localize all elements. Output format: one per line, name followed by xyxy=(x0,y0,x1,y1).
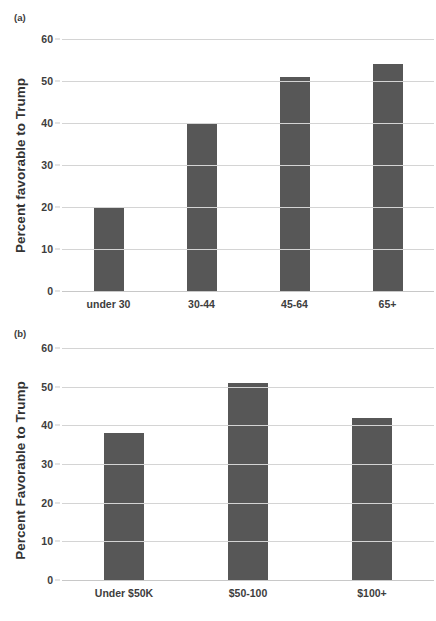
y-tick-label-0-b: 0 xyxy=(47,574,53,586)
y-tick-label-10-a: 10 xyxy=(41,243,53,255)
gridline-20-b xyxy=(62,503,434,504)
y-tick-label-0-a: 0 xyxy=(47,285,53,297)
gridline-10-b xyxy=(62,541,434,542)
gridline-0-b xyxy=(62,580,434,581)
y-tick-mark-50-a xyxy=(55,81,60,82)
y-tick-mark-60-a xyxy=(55,39,60,40)
bar-b-1 xyxy=(228,383,268,580)
chart-panel-b: (b) Percent Favorable to Trump 010203040… xyxy=(0,320,436,621)
y-tick-mark-20-b xyxy=(55,502,60,503)
gridline-40-a xyxy=(62,123,434,124)
x-category-label-b-1: $50-100 xyxy=(229,587,268,599)
y-tick-label-60-b: 60 xyxy=(41,342,53,354)
y-tick-mark-30-b xyxy=(55,464,60,465)
y-tick-mark-0-b xyxy=(55,580,60,581)
gridline-50-a xyxy=(62,81,434,82)
y-tick-label-10-b: 10 xyxy=(41,535,53,547)
bar-a-2 xyxy=(280,77,310,291)
plot-area-a: 0102030405060under 3030-4445-6465+ xyxy=(62,39,434,291)
gridline-60-b xyxy=(62,348,434,349)
y-tick-label-40-b: 40 xyxy=(41,419,53,431)
gridline-30-a xyxy=(62,165,434,166)
y-tick-mark-40-a xyxy=(55,123,60,124)
panel-label-b: (b) xyxy=(14,328,26,339)
gridline-20-a xyxy=(62,207,434,208)
y-axis-title-b: Percent Favorable to Trump xyxy=(13,341,28,601)
gridline-10-a xyxy=(62,249,434,250)
plot-area-b: 0102030405060Under $50K$50-100$100+ xyxy=(62,348,434,580)
y-tick-mark-10-b xyxy=(55,541,60,542)
bar-a-3 xyxy=(373,64,403,291)
y-tick-label-20-b: 20 xyxy=(41,497,53,509)
y-tick-label-30-b: 30 xyxy=(41,458,53,470)
y-tick-label-30-a: 30 xyxy=(41,159,53,171)
gridline-60-a xyxy=(62,39,434,40)
y-axis-title-a: Percent favorable to Trump xyxy=(13,36,28,296)
y-tick-label-40-a: 40 xyxy=(41,117,53,129)
gridline-40-b xyxy=(62,425,434,426)
gridline-30-b xyxy=(62,464,434,465)
y-tick-mark-40-b xyxy=(55,425,60,426)
y-tick-mark-20-a xyxy=(55,207,60,208)
x-category-label-a-0: under 30 xyxy=(87,298,131,310)
y-tick-mark-0-a xyxy=(55,291,60,292)
y-tick-mark-30-a xyxy=(55,165,60,166)
bar-b-0 xyxy=(104,433,144,580)
panel-label-a: (a) xyxy=(14,12,26,23)
y-tick-label-50-a: 50 xyxy=(41,75,53,87)
x-category-label-a-3: 65+ xyxy=(379,298,397,310)
x-category-label-a-2: 45-64 xyxy=(281,298,308,310)
gridline-50-b xyxy=(62,387,434,388)
chart-panel-a: (a) Percent favorable to Trump 010203040… xyxy=(0,0,436,320)
y-tick-label-20-a: 20 xyxy=(41,201,53,213)
x-category-label-b-2: $100+ xyxy=(357,587,387,599)
y-tick-mark-10-a xyxy=(55,249,60,250)
y-tick-label-60-a: 60 xyxy=(41,33,53,45)
y-tick-mark-60-b xyxy=(55,348,60,349)
x-category-label-a-1: 30-44 xyxy=(188,298,215,310)
gridline-0-a xyxy=(62,291,434,292)
x-category-label-b-0: Under $50K xyxy=(95,587,153,599)
bar-b-2 xyxy=(352,418,392,580)
y-tick-label-50-b: 50 xyxy=(41,381,53,393)
y-tick-mark-50-b xyxy=(55,386,60,387)
figure-container: (a) Percent favorable to Trump 010203040… xyxy=(0,0,436,621)
